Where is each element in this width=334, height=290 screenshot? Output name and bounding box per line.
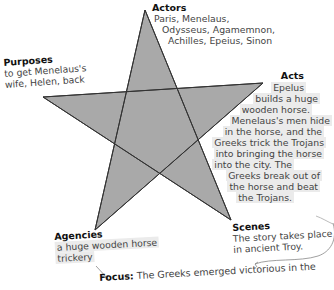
focus-heading: Focus:	[99, 270, 134, 283]
actors-heading: Actors	[152, 2, 282, 13]
actors-text: Paris, Menelaus, Odysseus, Agamemnon, Ac…	[152, 13, 282, 46]
acts-text: Epelus builds a huge wooden horse. Menel…	[212, 82, 334, 203]
acts-heading: Acts	[212, 70, 334, 81]
scenes-label: Scenes The story takes place in ancient …	[232, 217, 334, 255]
agencies-label: Agencies a huge wooden horse trickery	[54, 225, 166, 264]
actors-label: Actors Paris, Menelaus, Odysseus, Agamem…	[152, 2, 282, 46]
acts-label: Acts Epelus builds a huge wooden horse. …	[212, 70, 334, 203]
